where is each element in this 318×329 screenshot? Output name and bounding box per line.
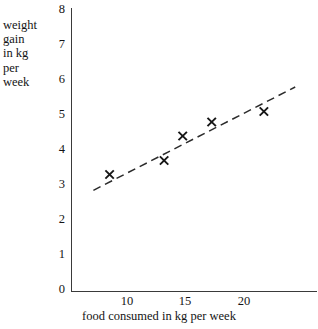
y-axis-line <box>71 8 72 292</box>
y-tick-label-1: 1 <box>49 248 65 261</box>
x-axis-line <box>71 291 317 292</box>
y-tick-label-3: 3 <box>49 178 65 191</box>
y-tick-label-4: 4 <box>49 143 65 156</box>
scatter-plot: weight gain in kg per week 0 1 2 3 4 5 6… <box>0 0 318 329</box>
y-axis-label-line-1: weight <box>3 18 49 32</box>
trend-line <box>93 87 295 190</box>
x-axis-label: food consumed in kg per week <box>0 309 318 324</box>
x-tick-label-10: 10 <box>114 295 140 308</box>
y-axis-label-line-2: gain <box>3 32 49 46</box>
data-point-3 <box>208 118 216 126</box>
y-tick-label-2: 2 <box>49 213 65 226</box>
y-tick-label-6: 6 <box>49 73 65 86</box>
y-axis-label-line-4: per <box>3 61 49 75</box>
data-point-1 <box>160 156 168 164</box>
y-tick-label-7: 7 <box>49 38 65 51</box>
y-tick-label-8: 8 <box>49 3 65 16</box>
y-axis-label: weight gain in kg per week <box>3 18 49 89</box>
y-tick-label-5: 5 <box>49 108 65 121</box>
y-axis-label-line-5: week <box>3 75 49 89</box>
y-tick-label-0: 0 <box>49 283 65 296</box>
data-point-markers <box>105 107 268 178</box>
data-point-4 <box>260 107 268 115</box>
y-axis-label-line-3: in kg <box>3 46 49 60</box>
data-point-2 <box>179 132 187 140</box>
x-tick-label-20: 20 <box>231 295 257 308</box>
x-tick-label-15: 15 <box>172 295 198 308</box>
data-point-0 <box>105 170 113 178</box>
